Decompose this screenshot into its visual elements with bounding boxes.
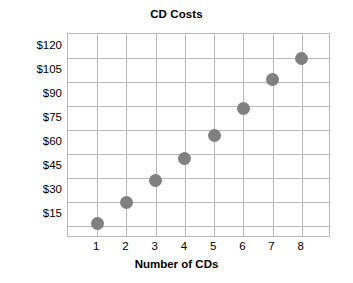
chart-title: CD Costs <box>0 8 353 20</box>
vertical-gridline <box>156 34 157 236</box>
y-axis-tick-label: $60 <box>0 135 62 147</box>
data-point <box>120 196 133 209</box>
x-axis-title: Number of CDs <box>0 258 353 270</box>
horizontal-gridline <box>68 106 329 107</box>
x-axis-tick-label: 1 <box>84 240 108 252</box>
horizontal-gridline <box>68 130 329 131</box>
data-point <box>178 152 191 165</box>
vertical-gridline <box>243 34 244 236</box>
plot-area <box>67 33 330 237</box>
data-point <box>149 174 162 187</box>
y-axis-tick-label: $105 <box>0 63 62 75</box>
y-axis-tick-label: $45 <box>0 159 62 171</box>
horizontal-gridline <box>68 154 329 155</box>
y-axis-tick-label: $120 <box>0 39 62 51</box>
vertical-gridline <box>273 34 274 236</box>
horizontal-gridline <box>68 178 329 179</box>
data-point <box>91 217 104 230</box>
x-axis-tick-label: 3 <box>143 240 167 252</box>
cd-costs-scatter-chart: CD Costs $120$105$90$75$60$45$30$15 1234… <box>0 0 353 283</box>
x-axis-tick-label: 5 <box>201 240 225 252</box>
y-axis-tick-label: $90 <box>0 87 62 99</box>
y-axis-tick-label: $75 <box>0 111 62 123</box>
vertical-gridline <box>185 34 186 236</box>
data-point <box>266 73 279 86</box>
horizontal-gridline <box>68 226 329 227</box>
x-axis-tick-label: 6 <box>230 240 254 252</box>
horizontal-gridline <box>68 82 329 83</box>
data-point <box>208 129 221 142</box>
x-axis-tick-label: 2 <box>113 240 137 252</box>
vertical-gridline <box>97 34 98 236</box>
data-point <box>237 102 250 115</box>
x-axis-tick-label: 8 <box>289 240 313 252</box>
x-axis-tick-label-group: 12345678 <box>67 240 330 256</box>
x-axis-tick-label: 4 <box>172 240 196 252</box>
y-axis-tick-label: $30 <box>0 183 62 195</box>
x-axis-tick-label: 7 <box>260 240 284 252</box>
horizontal-gridline <box>68 202 329 203</box>
horizontal-gridline <box>68 58 329 59</box>
y-axis-tick-label: $15 <box>0 207 62 219</box>
data-point <box>295 52 308 65</box>
y-axis-tick-label-group: $120$105$90$75$60$45$30$15 <box>0 33 62 237</box>
